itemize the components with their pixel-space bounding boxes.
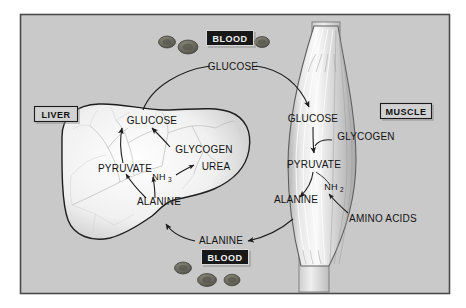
blood-top-label-text: BLOOD [213,34,248,44]
liver-ammonia-base: NH [152,172,165,182]
blood-alanine-label: ALANINE [199,235,243,246]
muscle-pyruvate-label: PYRUVATE [287,159,341,170]
liver-pyruvate-label: PYRUVATE [98,163,152,174]
blood-glucose-label: GLUCOSE [208,61,258,72]
liver-glycogen-label: GLYCOGEN [175,144,233,155]
muscle-alanine-label: ALANINE [274,194,318,205]
blood-bottom-label-text: BLOOD [208,253,243,263]
blood-cell-center [163,39,172,45]
liver-label-box: LIVER [35,107,81,125]
blood-cell-center [228,277,236,283]
muscle-amino-acids-label: AMINO ACIDS [349,213,417,224]
blood-bottom-label-box: BLOOD [202,250,252,268]
muscle-label-box: MUSCLE [381,104,435,122]
blood-cell-center [183,43,194,50]
blood-cell-center [258,39,266,45]
muscle-glucose-label: GLUCOSE [288,113,338,124]
liver-alanine-label: ALANINE [137,196,181,207]
muscle-amine-base: NH [324,182,337,192]
liver-urea-label: UREA [202,161,231,172]
muscle-amine-subscript: 2 [340,186,344,193]
muscle-glycogen-label: GLYCOGEN [337,131,395,142]
liver-ammonia-subscript: 3 [168,176,172,183]
muscle-label-text: MUSCLE [386,107,427,117]
glucose-alanine-cycle-figure: BLOOD BLOOD LIVER MUSCLE GLUCOSE ALANINE… [0,0,466,308]
blood-top-label-box: BLOOD [207,31,257,49]
liver-glucose-label: GLUCOSE [127,115,177,126]
blood-cell-center [202,277,212,284]
blood-cell-center [179,265,188,271]
liver-label-text: LIVER [41,110,70,120]
